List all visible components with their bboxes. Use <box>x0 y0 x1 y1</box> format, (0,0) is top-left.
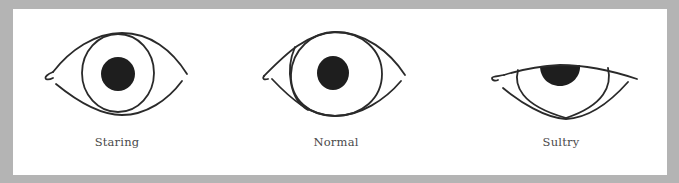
sultry-label: Sultry <box>501 135 621 149</box>
sultry-eye-icon <box>492 65 637 119</box>
normal-label: Normal <box>276 135 396 149</box>
normal-tear-duct <box>263 76 268 79</box>
sultry-tear-duct <box>492 75 504 81</box>
eye-shapes-figure: Staring Normal Sultry <box>0 0 679 183</box>
staring-label: Staring <box>57 135 177 149</box>
eye-illustrations <box>0 0 679 183</box>
staring-tear-duct <box>45 72 53 79</box>
staring-pupil <box>101 57 135 91</box>
sultry-lower-lid <box>503 82 628 119</box>
sultry-pupil-half <box>540 65 580 86</box>
normal-pupil <box>317 56 349 90</box>
